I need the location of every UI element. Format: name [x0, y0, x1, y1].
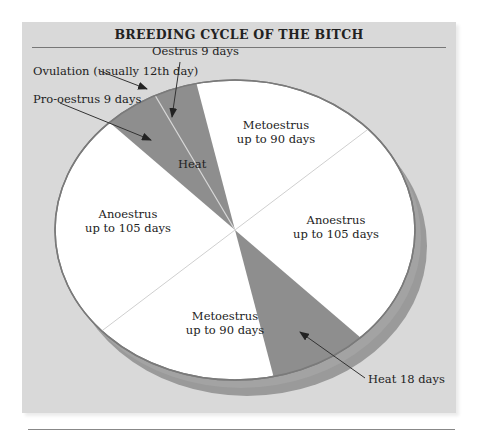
- anoestrus-left-duration: up to 105 days: [80, 221, 176, 235]
- prooestrus-label: Pro-oestrus 9 days: [33, 92, 141, 106]
- anoestrus-left-label: Anoestrus up to 105 days: [80, 207, 176, 235]
- anoestrus-left-title: Anoestrus: [80, 207, 176, 221]
- metoestrus-upper-duration: up to 90 days: [228, 132, 324, 146]
- anoestrus-right-duration: up to 105 days: [286, 227, 386, 241]
- heat-upper-label: Heat: [178, 157, 206, 171]
- metoestrus-lower-label: Metoestrus up to 90 days: [177, 309, 273, 337]
- ovulation-label: Ovulation (usually 12th day): [33, 64, 198, 78]
- oestrus-label: Oestrus 9 days: [152, 44, 239, 58]
- metoestrus-lower-title: Metoestrus: [177, 309, 273, 323]
- metoestrus-upper-title: Metoestrus: [228, 118, 324, 132]
- anoestrus-right-title: Anoestrus: [286, 213, 386, 227]
- metoestrus-upper-label: Metoestrus up to 90 days: [228, 118, 324, 146]
- metoestrus-lower-duration: up to 90 days: [177, 323, 273, 337]
- heat-18-label: Heat 18 days: [368, 372, 445, 386]
- anoestrus-right-label: Anoestrus up to 105 days: [286, 213, 386, 241]
- page-bottom-rule: [28, 429, 455, 430]
